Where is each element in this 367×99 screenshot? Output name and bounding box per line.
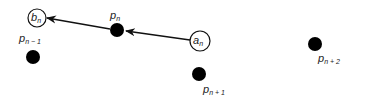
arrow-a-to-p	[126, 31, 190, 40]
point-p-n-plus-1: pn + 1	[192, 67, 225, 96]
point-p-n: pn	[109, 9, 124, 37]
node-b-n: bn	[28, 9, 46, 27]
svg-text:pn: pn	[109, 9, 120, 22]
diagram-canvas: bn an pn pn − 1 pn + 1 pn + 2	[0, 0, 367, 99]
svg-text:pn + 2: pn + 2	[317, 52, 340, 65]
point-p-n-plus-2: pn + 2	[308, 37, 340, 65]
svg-text:pn − 1: pn − 1	[18, 32, 41, 45]
arrow-p-to-b	[47, 18, 110, 29]
node-a-n: an	[190, 31, 210, 51]
point-p-n-minus-1: pn − 1	[18, 32, 41, 64]
svg-text:pn + 1: pn + 1	[202, 83, 225, 96]
